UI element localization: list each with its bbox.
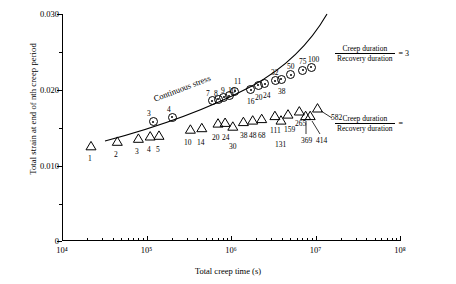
y-tick-label-0: 0 [19,237,59,245]
x-tick-label-0: 10⁴ [42,245,82,255]
ratio-denominator: Recovery duration [335,124,395,133]
y-axis-title: Total strain at end of nth creep period [28,0,38,234]
ratio-annotation-lower: Creep duration Recovery duration = [335,114,403,133]
ratio-numerator: Creep duration [335,44,395,54]
x-tick-label-4: 10⁸ [380,245,420,255]
x-tick-label-1: 10⁵ [127,245,167,255]
ratio-equals-value: = [396,119,403,128]
y-tick-label-2: 0.020 [19,86,59,94]
ratio-fraction: Creep duration Recovery duration [335,44,395,63]
ratio-numerator: Creep duration [335,114,395,124]
ratio-equals-value: = 3 [396,49,409,58]
x-tick-label-3: 10⁷ [296,245,336,255]
ratio-denominator: Recovery duration [335,54,395,63]
x-tick-label-2: 10⁶ [211,245,251,255]
x-axis-title: Total creep time (s) [0,266,456,276]
y-tick-label-3: 0.030 [19,10,59,18]
ratio-annotation-upper: Creep duration Recovery duration = 3 [335,44,409,63]
x-tick-1e8 [400,236,401,241]
chart-figure: Total strain at end of nth creep period … [0,0,456,284]
y-tick-label-1: 0.010 [19,162,59,170]
ratio-fraction: Creep duration Recovery duration [335,114,395,133]
